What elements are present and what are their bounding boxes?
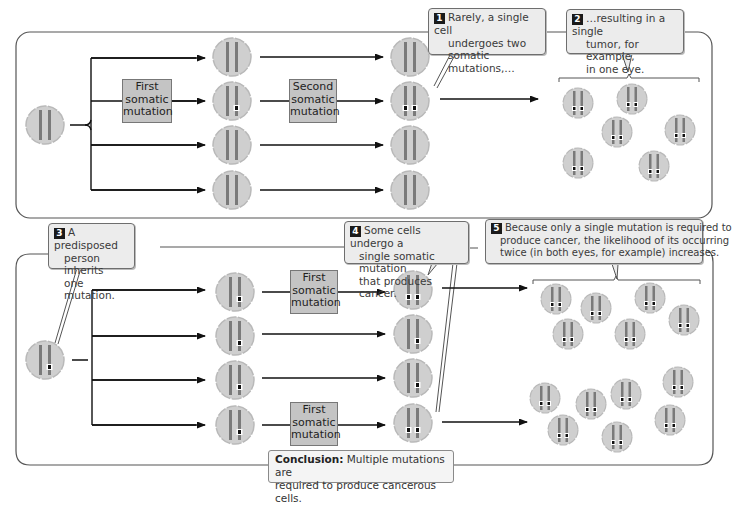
bottom-col2-cell — [394, 359, 432, 397]
mutation-box-line: First — [291, 404, 337, 417]
callout-text: in one eye. — [572, 63, 678, 76]
callout-text: Because only a single mutation is requir… — [505, 222, 732, 233]
bottom-col1-cell — [216, 273, 254, 311]
callout-5: 5Because only a single mutation is requi… — [485, 219, 703, 264]
bottom-branch-lines — [72, 290, 196, 425]
callout-text: person inherits — [54, 252, 129, 277]
top-col1-cell — [213, 126, 251, 164]
bottom-tumor-cluster-upper — [541, 283, 699, 349]
step-badge-4: 4 — [350, 226, 361, 237]
step-badge-2: 2 — [572, 14, 583, 25]
callout-text: one mutation. — [54, 277, 129, 302]
bottom-start-cell-inherited-mutation — [26, 341, 64, 379]
top-col2-cell — [391, 38, 429, 76]
mutation-box-line: mutation — [290, 106, 336, 119]
callout-2: 2…resulting in a single tumor, for examp… — [566, 9, 684, 54]
mutation-box-line: mutation — [291, 429, 337, 442]
bottom-col1-cell — [216, 361, 254, 399]
callout-text: somatic mutations,… — [434, 49, 540, 74]
top-start-cell — [26, 106, 64, 144]
top-col1-cell — [213, 171, 251, 209]
callout-3: 3A predisposed person inherits one mutat… — [48, 223, 135, 269]
step-badge-1: 1 — [434, 13, 445, 24]
conclusion-text: required to produce cancerous cells. — [275, 479, 447, 505]
callout-text: that produces cancer. — [350, 275, 463, 300]
bottom-col1-cell — [216, 317, 254, 355]
first-somatic-mutation-box-upper: First somatic mutation — [290, 270, 338, 314]
top-col2-cell — [391, 126, 429, 164]
callout-text: twice (in both eyes, for example) increa… — [491, 247, 697, 260]
first-somatic-mutation-box-lower: First somatic mutation — [290, 402, 338, 446]
callout-4: 4Some cells undergo a single somatic mut… — [344, 221, 469, 264]
mutation-box-line: mutation — [291, 297, 337, 310]
mutation-box-line: First — [291, 272, 337, 285]
conclusion-label: Conclusion: — [275, 453, 343, 465]
top-col2-cell-double-mutated — [391, 82, 429, 120]
bottom-tumor-cluster-lower — [530, 367, 693, 452]
bottom-col2-cell-cancer — [394, 404, 432, 442]
conclusion-box: Conclusion: Multiple mutations are requi… — [268, 450, 454, 483]
callout-text: tumor, for example, — [572, 38, 678, 63]
mutation-box-line: Second — [290, 81, 336, 94]
callout-5-pointer — [612, 264, 618, 279]
top-tumor-bracket — [559, 74, 699, 82]
mutation-box-line: mutation — [123, 106, 171, 119]
bottom-tumor-bracket — [533, 276, 700, 284]
callout-text: produce cancer, the likelihood of its oc… — [491, 235, 697, 248]
top-col2-cell — [391, 171, 429, 209]
bottom-col2-cell — [394, 315, 432, 353]
callout-1: 1Rarely, a single cell undergoes two som… — [428, 8, 546, 55]
callout-text: …resulting in a single — [572, 12, 665, 37]
mutation-box-line: First — [123, 81, 171, 94]
top-col1-cell — [213, 38, 251, 76]
step-badge-5: 5 — [491, 223, 502, 234]
top-tumor-cluster — [563, 84, 695, 181]
callout-text: single somatic mutation — [350, 250, 463, 275]
callout-text: Rarely, a single cell — [434, 11, 529, 36]
callout-text: undergoes two — [434, 37, 540, 50]
top-col1-cell-mutated — [213, 82, 251, 120]
first-somatic-mutation-box: First somatic mutation — [122, 79, 172, 123]
step-badge-3: 3 — [54, 228, 65, 239]
second-somatic-mutation-box: Second somatic mutation — [289, 79, 337, 123]
bottom-col1-cell — [216, 406, 254, 444]
